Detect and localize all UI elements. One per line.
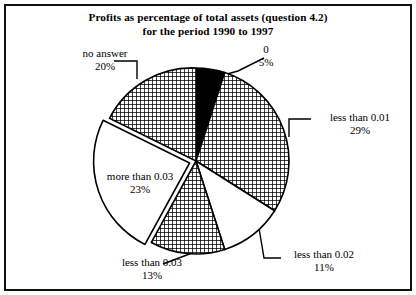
slice-label-mt003-percent: 23% <box>92 183 188 196</box>
slice-label-lt002-name: less than 0.02 <box>274 248 374 261</box>
slice-label-lt001-name: less than 0.01 <box>312 111 408 124</box>
slice-label-mt003: more than 0.03 23% <box>92 170 188 196</box>
slice-label-noanswer-percent: 20% <box>66 60 144 73</box>
slice-label-lt003-percent: 13% <box>104 269 200 282</box>
slice-label-noanswer: no answer 20% <box>66 47 144 73</box>
pie-slices <box>94 68 289 254</box>
slice-label-zero: 0 5% <box>242 43 290 69</box>
slice-label-lt003-name: less than 0.03 <box>104 256 200 269</box>
slice-label-zero-percent: 5% <box>242 56 290 69</box>
slice-label-lt002-percent: 11% <box>274 261 374 274</box>
slice-label-lt001-percent: 29% <box>312 124 408 137</box>
slice-label-lt001: less than 0.01 29% <box>312 111 408 137</box>
pie-chart-figure: Profits as percentage of total assets (q… <box>0 0 416 295</box>
leader-line-lt001 <box>289 119 311 137</box>
slice-label-noanswer-name: no answer <box>66 47 144 60</box>
slice-label-lt002: less than 0.02 11% <box>274 248 374 274</box>
slice-label-zero-name: 0 <box>242 43 290 56</box>
slice-label-lt003: less than 0.03 13% <box>104 256 200 282</box>
slice-label-mt003-name: more than 0.03 <box>92 170 188 183</box>
